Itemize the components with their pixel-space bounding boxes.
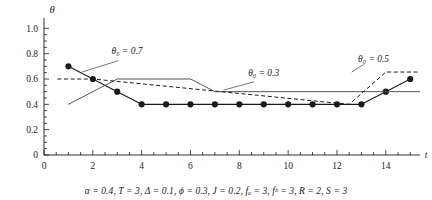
x-axis-title: t <box>425 150 428 160</box>
data-point <box>236 101 242 107</box>
y-tick-label: 0.4 <box>26 100 38 110</box>
data-point <box>358 101 364 107</box>
annotation-leader <box>352 64 364 72</box>
label-theta0-05: θ₀ = 0.5 <box>358 54 389 64</box>
figure-caption: α = 0.4, T = 3, Δ = 0.1, ϕ = 0.3, J = 0.… <box>0 186 432 196</box>
data-point <box>261 101 267 107</box>
y-tick-label: 0.2 <box>26 125 38 135</box>
y-tick-label: 0 <box>33 150 38 160</box>
y-tick-label: 1.0 <box>26 24 38 34</box>
x-tick-label: 2 <box>90 161 95 171</box>
data-point <box>334 101 340 107</box>
data-point <box>163 101 169 107</box>
x-tick-label: 12 <box>332 161 342 171</box>
x-tick-label: 10 <box>283 161 293 171</box>
data-point <box>285 101 291 107</box>
data-point <box>212 101 218 107</box>
x-tick-label: 4 <box>139 161 144 171</box>
label-theta0-07: θ₀ = 0.7 <box>112 46 144 56</box>
annotation-leader <box>223 82 254 90</box>
series-line-0 <box>68 66 410 104</box>
data-point <box>187 101 193 107</box>
label-theta0-03: θ₀ = 0.3 <box>248 68 279 78</box>
y-tick-label: 0.8 <box>26 49 38 59</box>
series-line-2 <box>57 72 420 104</box>
x-tick-label: 0 <box>42 161 47 171</box>
y-tick-label: 0.6 <box>26 74 38 84</box>
x-tick-label: 6 <box>188 161 193 171</box>
data-point <box>65 63 71 69</box>
data-point <box>114 89 120 95</box>
data-point <box>309 101 315 107</box>
figure: 02468101214t00.20.40.60.81.0θθ₀ = 0.7θ₀ … <box>0 0 432 200</box>
y-axis-title: θ <box>49 4 54 15</box>
series-line-1 <box>68 79 420 104</box>
data-point <box>407 76 413 82</box>
x-tick-label: 8 <box>237 161 242 171</box>
chart-canvas: 02468101214t00.20.40.60.81.0θθ₀ = 0.7θ₀ … <box>0 0 432 200</box>
x-tick-label: 14 <box>381 161 391 171</box>
annotation-leader <box>82 61 119 72</box>
data-point <box>139 101 145 107</box>
